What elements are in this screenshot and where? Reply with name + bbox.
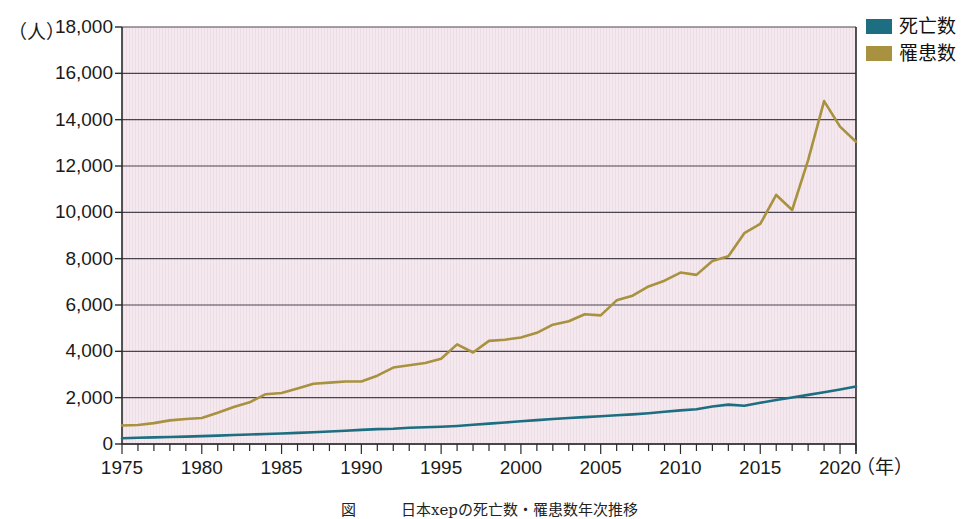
y-axis-tick-label: 4,000 [45,340,113,362]
legend-item: 死亡数 [866,14,976,39]
legend-color-swatch [866,46,892,61]
x-axis-tick-label: 1980 [167,457,237,479]
legend-color-swatch [866,19,892,34]
legend-item: 罹患数 [866,41,976,66]
y-axis-tick-label: 0 [45,433,113,455]
y-axis-tick-label: 8,000 [45,248,113,270]
legend-item-label: 罹患数 [899,44,956,63]
y-axis-tick-label: 6,000 [45,294,113,316]
x-axis-tick-label: 1990 [326,457,396,479]
y-axis-tick-label: 18,000 [45,16,113,38]
x-axis-tick-label: 2005 [566,457,636,479]
x-axis-tick-label: 2010 [645,457,715,479]
x-axis-tick-label: 2000 [486,457,556,479]
x-axis-tick-label: 1995 [406,457,476,479]
x-axis-tick-label: 2020 [805,457,875,479]
x-axis-tick-label: 1985 [247,457,317,479]
figure-caption: 図 日本херの死亡数・罹患数年次推移 [0,498,979,519]
x-axis-tick-label: 2015 [725,457,795,479]
x-axis-tick-label: 1975 [87,457,157,479]
y-axis-tick-label: 14,000 [45,109,113,131]
chart-legend: 死亡数罹患数 [866,14,976,68]
y-axis-tick-label: 16,000 [45,62,113,84]
y-axis-tick-label: 12,000 [45,155,113,177]
legend-item-label: 死亡数 [899,17,956,36]
y-axis-tick-label: 2,000 [45,387,113,409]
y-axis-tick-label: 10,000 [45,201,113,223]
